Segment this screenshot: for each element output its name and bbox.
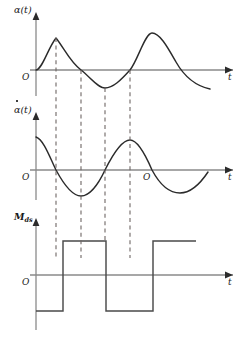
alpha-dot-origin-label: O [22, 172, 29, 182]
moment-time-label: t [228, 277, 232, 287]
panel-alpha [30, 12, 233, 96]
moment-origin-label: O [22, 277, 29, 287]
alpha-curve [36, 33, 210, 89]
overdot-icon [16, 100, 18, 102]
panel-moment [30, 218, 233, 330]
panel-alpha-dot [30, 112, 233, 200]
alpha-origin-label: O [22, 72, 29, 82]
moment-axis-label: Mds [14, 211, 33, 224]
waveform-figure: α(t) O t α(t) O O t Mds O t [0, 0, 242, 348]
alpha-dot-axis-label: α(t) [14, 104, 32, 115]
moment-square-wave [36, 241, 196, 311]
alpha-dot-overdot-group: α(t) [14, 104, 32, 115]
moment-axis-label-subscript: ds [25, 216, 33, 224]
alpha-time-label: t [228, 72, 232, 82]
alpha-axis-label: α(t) [14, 4, 32, 15]
alpha-value-axis-arrowhead [33, 12, 40, 20]
alpha-dot-curve [36, 137, 208, 196]
moment-value-axis-arrowhead [33, 218, 40, 226]
figure-canvas [0, 0, 242, 348]
alpha-dot-value-axis-arrowhead [33, 112, 40, 120]
alpha-dot-time-label: t [228, 172, 232, 182]
alpha-dot-second-origin-label: O [143, 172, 150, 182]
